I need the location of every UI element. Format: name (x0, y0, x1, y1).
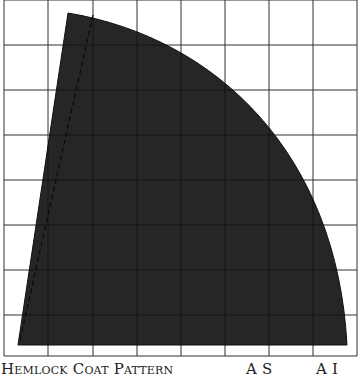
pattern-piece-code: A I (316, 360, 338, 378)
pattern-caption: Hemlock Coat Pattern A S A I (0, 360, 358, 378)
pattern-piece (18, 13, 347, 345)
pattern-piece-label: A S (246, 360, 272, 378)
pattern-title: Hemlock Coat Pattern (1, 360, 173, 378)
